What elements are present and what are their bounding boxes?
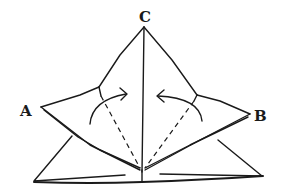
bottom-left-triangle [34,136,125,181]
left-kink-tick [99,87,101,96]
left-flap-top-edge [41,87,99,107]
left-fold-arrow-icon [90,94,126,124]
right-flap-top-edge [197,95,250,114]
upper-left-edge [99,27,144,87]
left-flap-lower-edge-inner [44,110,140,168]
origami-diagram: C A B [0,0,281,195]
bottom-right-triangle [160,140,262,176]
point-label-b: B [254,107,267,125]
point-label-c: C [139,8,151,26]
upper-right-edge [144,27,197,95]
base-edge [34,176,263,183]
right-flap-lower-edge-inner [145,117,248,168]
center-crease [142,27,144,172]
point-label-a: A [19,102,32,120]
right-valley-fold-line [145,101,194,168]
right-kink-tick [194,95,197,101]
left-valley-fold-line [101,96,140,168]
